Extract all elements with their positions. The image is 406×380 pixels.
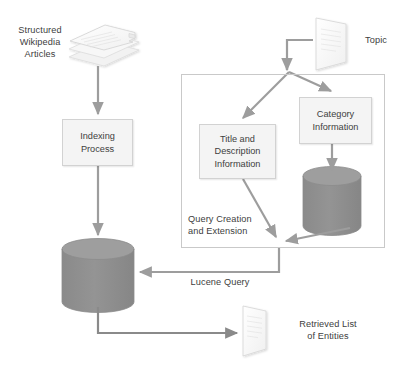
- topic-document-icon: [316, 18, 346, 70]
- category-information-box[interactable]: Category Information: [299, 97, 372, 144]
- lucene-query-edge-label: Lucene Query: [160, 276, 280, 288]
- title-and-description-information-box[interactable]: Title and Description Information: [199, 124, 276, 179]
- retrieved-list-of-entities-label: Retrieved List of Entities: [278, 318, 378, 342]
- edge-topic-to-junction: [287, 40, 313, 70]
- topic-label: Topic: [352, 34, 400, 46]
- diagram-canvas: Structured Lucene Index YAGO Query Creat…: [0, 0, 406, 380]
- category-information-label: Category Information: [313, 108, 359, 132]
- indexing-process-label: Indexing Process: [80, 130, 115, 154]
- indexing-process-box[interactable]: Indexing Process: [62, 119, 133, 166]
- structured-wikipedia-articles-label: Structured Wikipedia Articles: [4, 24, 76, 61]
- title-and-description-information-label: Title and Description Information: [215, 133, 261, 170]
- structured-wikipedia-articles-icon: [69, 25, 139, 66]
- query-creation-and-extension-label: Query Creation and Extension: [188, 213, 298, 237]
- retrieved-list-document-icon: [243, 306, 266, 356]
